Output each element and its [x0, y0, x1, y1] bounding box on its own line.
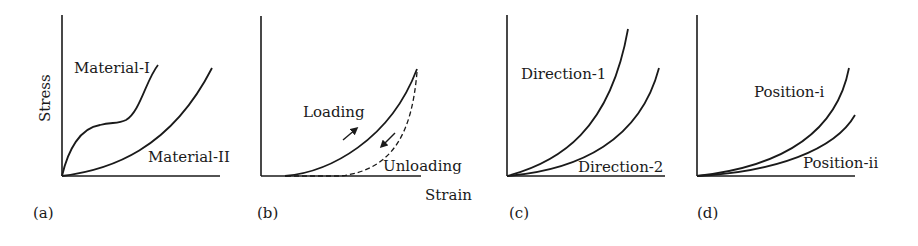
panel-d: Position-i Position-ii (d) [697, 15, 878, 222]
panel-b: Loading Unloading Strain (b) [257, 16, 472, 222]
loading-arrow-icon [343, 129, 356, 140]
stress-strain-figure: Material-I Material-II Stress (a) Loadin… [0, 0, 918, 246]
direction-1-curve [507, 29, 628, 176]
material-i-label: Material-I [74, 59, 150, 77]
material-i-curve [62, 65, 158, 176]
material-ii-label: Material-II [148, 148, 230, 166]
panel-a-label: (a) [33, 204, 54, 222]
panel-c-label: (c) [509, 204, 529, 222]
position-ii-label: Position-ii [803, 154, 878, 172]
direction-1-label: Direction-1 [521, 65, 606, 83]
direction-2-label: Direction-2 [578, 158, 663, 176]
unloading-arrow-icon [382, 133, 395, 146]
y-axis-label: Stress [36, 74, 54, 122]
panel-a: Material-I Material-II Stress (a) [33, 15, 230, 222]
panel-c: Direction-1 Direction-2 (c) [507, 15, 665, 222]
loading-label: Loading [303, 103, 365, 121]
panel-b-label: (b) [257, 204, 278, 222]
position-i-label: Position-i [754, 83, 825, 101]
unloading-label: Unloading [383, 157, 462, 175]
x-axis-label: Strain [425, 186, 472, 204]
panel-d-label: (d) [697, 204, 718, 222]
